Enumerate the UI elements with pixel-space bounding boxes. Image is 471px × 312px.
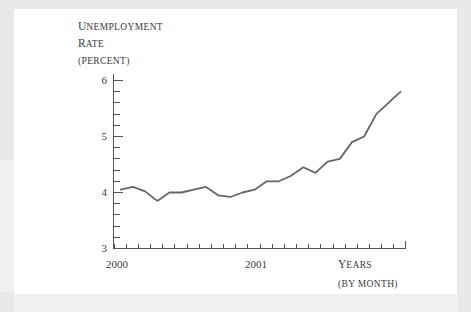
y-tick-label-5: 5 (102, 130, 108, 142)
y-axis-title-line-2: RATE (78, 37, 104, 49)
y-tick-label-4: 4 (102, 186, 108, 198)
x-tick-label-2001: 2001 (245, 258, 267, 270)
unemployment-rate-chart: UNEMPLOYMENT RATE (PERCENT) (0, 0, 471, 312)
screenshot-root: UNEMPLOYMENT RATE (PERCENT) (0, 0, 471, 312)
y-axis-title-line-3: (PERCENT) (78, 56, 130, 67)
y-tick-label-3: 3 (102, 242, 108, 254)
y-axis-minor-ticks (114, 92, 120, 238)
x-axis-title-line-2: (BY MONTH) (338, 279, 398, 290)
x-axis-title-line-1: YEARS (338, 258, 372, 270)
y-tick-label-6: 6 (102, 74, 108, 86)
x-axis-month-ticks (115, 244, 394, 249)
y-axis-title-line-1: UNEMPLOYMENT (78, 20, 163, 32)
series-line-unemployment-rate (121, 92, 401, 201)
x-tick-label-2000: 2000 (106, 258, 129, 270)
y-axis-major-ticks (114, 81, 123, 249)
